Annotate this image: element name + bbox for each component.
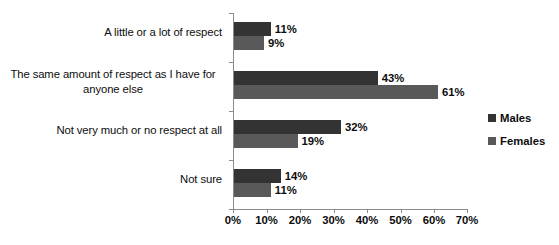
value-axis-label-5: 50% (389, 214, 412, 226)
value-axis-label-2: 20% (289, 214, 312, 226)
category-label-1-line-1: anyone else (2, 82, 224, 97)
value-axis-label-6: 60% (423, 214, 446, 226)
value-tick-3 (334, 209, 335, 213)
value-tick-6 (434, 209, 435, 213)
bar-females-1 (234, 85, 438, 99)
bar-value-females-0: 9% (268, 36, 284, 50)
value-tick-5 (401, 209, 402, 213)
value-tick-2 (300, 209, 301, 213)
bar-value-females-2: 19% (302, 134, 325, 148)
value-axis-label-0: 0% (225, 214, 241, 226)
bar-males-0 (234, 22, 271, 36)
value-axis-label-3: 30% (322, 214, 345, 226)
value-axis-label-1: 10% (255, 214, 278, 226)
bar-value-males-1: 43% (382, 71, 405, 85)
bar-value-males-2: 32% (345, 120, 368, 134)
legend-swatch-males-icon (488, 114, 496, 122)
plot-area: 11% 9% 43% 61% 32% 19% 14% 11% (233, 13, 468, 209)
bar-value-females-1: 61% (442, 85, 465, 99)
category-axis-labels: A little or a lot of respect The same am… (0, 13, 228, 209)
legend-label-females: Females (500, 135, 545, 147)
category-tick-1 (229, 62, 233, 63)
category-label-2-line-0: Not very much or no respect at all (57, 124, 223, 136)
legend-item-males: Males (488, 109, 556, 127)
value-axis-label-7: 70% (456, 214, 479, 226)
value-tick-1 (267, 209, 268, 213)
category-label-3-line-0: Not sure (180, 173, 222, 185)
bar-males-2 (234, 120, 341, 134)
value-tick-7 (467, 209, 468, 213)
bar-value-females-3: 11% (275, 183, 297, 197)
value-axis-label-4: 40% (356, 214, 379, 226)
category-tick-2 (229, 111, 233, 112)
category-tick-0 (229, 13, 233, 14)
value-tick-4 (367, 209, 368, 213)
chart-legend: Males Females (488, 109, 556, 155)
value-tick-0 (233, 209, 234, 213)
bar-females-0 (234, 36, 264, 50)
legend-item-females: Females (488, 132, 556, 150)
category-label-1: The same amount of respect as I have for… (2, 67, 224, 96)
category-label-1-line-0: The same amount of respect as I have for (2, 67, 224, 82)
bar-females-2 (234, 134, 298, 148)
category-label-3: Not sure (0, 172, 222, 187)
category-axis-line (233, 209, 468, 210)
bar-males-3 (234, 169, 281, 183)
category-label-0-line-0: A little or a lot of respect (104, 26, 222, 38)
category-label-2: Not very much or no respect at all (0, 123, 222, 138)
value-axis-labels: 0% 10% 20% 30% 40% 50% 60% 70% (233, 214, 468, 232)
legend-swatch-females-icon (488, 137, 496, 145)
bar-value-males-3: 14% (285, 169, 308, 183)
bar-males-1 (234, 71, 378, 85)
bar-value-males-0: 11% (275, 22, 297, 36)
bar-chart: A little or a lot of respect The same am… (0, 0, 559, 245)
legend-label-males: Males (500, 112, 531, 124)
bar-females-3 (234, 183, 271, 197)
category-label-0: A little or a lot of respect (0, 25, 222, 40)
category-tick-3 (229, 160, 233, 161)
